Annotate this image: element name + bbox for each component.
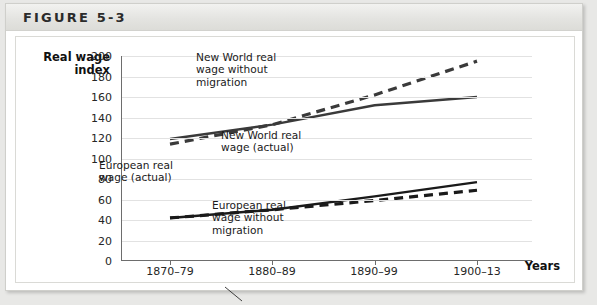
- y-tick-label-0: 0: [105, 255, 112, 268]
- gridline-40: [122, 220, 532, 221]
- figure-title: FIGURE 5-3: [23, 10, 127, 25]
- gridline-120: [122, 138, 532, 139]
- x-tick-label-1: 1880–89: [248, 265, 296, 278]
- annotation-new-world-actual: New World real wage (actual): [221, 129, 301, 154]
- gridline-140: [122, 118, 532, 119]
- figure-header-bar: FIGURE 5-3: [6, 4, 582, 31]
- x-tick-label-3: 1900–13: [453, 265, 501, 278]
- y-tick-label-60: 60: [98, 193, 112, 206]
- figure-card: FIGURE 5-3 Real wage index 2001801601401…: [5, 3, 583, 291]
- gridline-20: [122, 241, 532, 242]
- y-tick-label-120: 120: [91, 132, 112, 145]
- gridline-160: [122, 97, 532, 98]
- y-tick-label-140: 140: [91, 111, 112, 124]
- y-tick-label-160: 160: [91, 91, 112, 104]
- leader-nw-without: [225, 287, 242, 301]
- gridline-180: [122, 77, 532, 78]
- annotation-european-without-migration: European real wage without migration: [212, 199, 286, 236]
- annotation-european-actual: European real wage (actual): [99, 159, 173, 184]
- annotation-new-world-without-migration: New World real wage without migration: [196, 51, 276, 88]
- gridline-80: [122, 179, 532, 180]
- figure-body: Real wage index 200180160140120100806040…: [15, 36, 575, 283]
- y-tick-label-40: 40: [98, 214, 112, 227]
- x-tick-label-2: 1890–99: [350, 265, 398, 278]
- y-tick-label-180: 180: [91, 70, 112, 83]
- x-tick-label-0: 1870–79: [146, 265, 194, 278]
- x-axis-title: Years: [525, 259, 560, 273]
- y-tick-label-20: 20: [98, 234, 112, 247]
- plot-area: 1870–79 1880–89 1890–99 1900–13: [121, 56, 532, 261]
- gridline-200: [122, 56, 532, 57]
- gridline-60: [122, 200, 532, 201]
- y-tick-label-200: 200: [91, 50, 112, 63]
- gridline-100: [122, 159, 532, 160]
